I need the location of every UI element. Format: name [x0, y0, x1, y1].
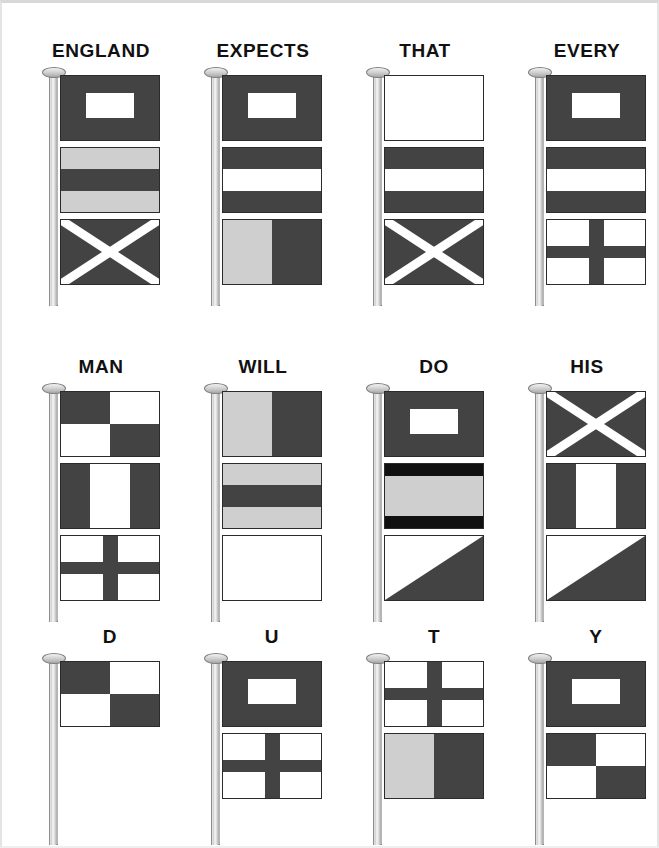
flagpole	[364, 65, 486, 311]
signal-flag-t	[222, 733, 322, 799]
signal-flag-w	[222, 75, 322, 141]
hoist-label: MAN	[40, 355, 162, 379]
signal-flag-w	[60, 75, 160, 141]
flagpole	[364, 651, 486, 848]
flag-vertical-half	[272, 220, 321, 284]
signal-flag-d	[60, 147, 160, 213]
signal-flag-w	[384, 391, 484, 457]
flag-horizontal-band	[385, 148, 483, 169]
flag-vertical-half	[385, 734, 434, 798]
flag-horizontal-band	[385, 464, 483, 476]
hoist-label: U	[222, 625, 322, 649]
flagpole	[526, 65, 648, 311]
signal-flag-h	[546, 463, 646, 529]
hoist-label: ENGLAND	[40, 39, 162, 63]
flagpole	[40, 381, 162, 627]
flag-center-rectangle	[410, 409, 457, 435]
signal-flag-h	[60, 463, 160, 529]
flag-horizontal-band	[385, 191, 483, 212]
flag-diagonal-icon	[547, 536, 645, 600]
signal-flag-e	[384, 535, 484, 601]
signal-flag-t	[60, 535, 160, 601]
flagpole	[364, 381, 486, 627]
flagpole-halyard	[380, 75, 382, 305]
flag-vertical-band	[547, 464, 576, 528]
hoist-label: HIS	[526, 355, 648, 379]
flag-center-rectangle	[572, 93, 619, 119]
flag-quarter	[61, 662, 110, 694]
signal-flag-w	[546, 75, 646, 141]
flag-horizontal-band	[385, 169, 483, 190]
flag-horizontal-band	[385, 476, 483, 517]
signal-flag-c	[222, 147, 322, 213]
signal-flag-t	[384, 661, 484, 727]
flag-horizontal-band	[385, 516, 483, 528]
flagpole	[526, 651, 648, 848]
flag-vertical-band	[90, 464, 129, 528]
signal-flag-d	[222, 463, 322, 529]
flagpole-halyard	[542, 661, 544, 844]
flagpole	[202, 65, 324, 311]
flag-saltire-icon	[61, 220, 159, 284]
signal-flag-u	[546, 733, 646, 799]
flag-center-rectangle	[572, 679, 619, 705]
signal-flag-u	[60, 391, 160, 457]
flag-center-rectangle	[86, 93, 133, 119]
flagpole	[40, 65, 162, 311]
flag-vertical-band	[61, 464, 90, 528]
hoist-label: WILL	[202, 355, 324, 379]
signal-flag-c	[384, 147, 484, 213]
signal-flag-k	[384, 733, 484, 799]
signal-flag-m	[384, 219, 484, 285]
flag-quarter	[61, 392, 110, 424]
flag-vertical-half	[434, 734, 483, 798]
flag-vertical-band	[130, 464, 159, 528]
flag-horizontal-band	[547, 148, 645, 169]
flagpole-halyard	[380, 661, 382, 844]
flag-horizontal-band	[223, 169, 321, 190]
flagpole-halyard	[56, 75, 58, 305]
flag-vertical-band	[576, 464, 615, 528]
flag-horizontal-band	[61, 169, 159, 190]
flag-cross-vertical	[427, 662, 442, 726]
flag-cross-vertical	[589, 220, 604, 284]
signal-flag-p	[384, 75, 484, 141]
flag-diagonal-icon	[385, 536, 483, 600]
flagpole-halyard	[56, 661, 58, 844]
flag-horizontal-band	[223, 148, 321, 169]
flag-grid: ENGLANDEXPECTSTHATEVERYMANWILLDOHISDUTY	[2, 3, 657, 846]
flagpole-halyard	[56, 391, 58, 621]
signal-flag-o	[384, 463, 484, 529]
flag-quarter	[547, 734, 596, 766]
signal-flag-w	[546, 661, 646, 727]
flag-horizontal-band	[223, 507, 321, 528]
hoist-label: D	[60, 625, 160, 649]
flag-horizontal-band	[547, 169, 645, 190]
signal-flag-k	[222, 219, 322, 285]
signal-flag-m	[60, 219, 160, 285]
flagpole-halyard	[542, 391, 544, 621]
flagpole-halyard	[218, 391, 220, 621]
signal-flag-m	[546, 391, 646, 457]
flag-horizontal-band	[223, 485, 321, 506]
signal-flag-w	[222, 661, 322, 727]
flag-horizontal-band	[61, 191, 159, 212]
flag-horizontal-band	[223, 464, 321, 485]
flag-vertical-band	[616, 464, 645, 528]
flagpole-halyard	[380, 391, 382, 621]
flag-horizontal-band	[223, 191, 321, 212]
flag-cross-vertical	[265, 734, 280, 798]
flag-center-rectangle	[248, 93, 295, 119]
flagpole	[202, 651, 324, 848]
flagpole	[202, 381, 324, 627]
flag-quarter	[110, 424, 159, 456]
hoist-label: EXPECTS	[202, 39, 324, 63]
flagpole	[526, 381, 648, 627]
flag-horizontal-band	[61, 148, 159, 169]
flagpole-halyard	[542, 75, 544, 305]
flag-quarter	[110, 694, 159, 726]
flag-cross-vertical	[103, 536, 118, 600]
flag-quarter	[596, 766, 645, 798]
flag-center-rectangle	[248, 679, 295, 705]
flagpole-halyard	[218, 661, 220, 844]
